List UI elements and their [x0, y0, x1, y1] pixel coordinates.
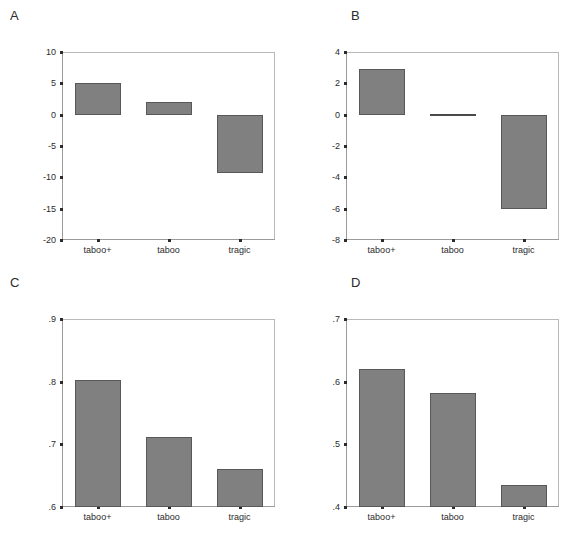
- y-tick-label: 4: [335, 48, 340, 57]
- y-tick-label: 0: [335, 110, 340, 119]
- panel-b: B 420-2-4-6-8 taboo+tabootragic: [284, 0, 568, 266]
- bar-taboo: [146, 437, 192, 507]
- x-tick-mark: [168, 239, 171, 242]
- x-tick-label: tragic: [228, 246, 250, 255]
- axis-spine-right: [558, 319, 559, 507]
- y-tick-mark: [344, 239, 347, 242]
- axis-spine-top: [62, 52, 275, 53]
- x-tick-label: taboo: [157, 246, 180, 255]
- y-tick-mark: [344, 145, 347, 148]
- x-tick-mark: [97, 239, 100, 242]
- bar-taboo-plus: [359, 369, 405, 507]
- bar-taboo-plus: [359, 69, 405, 114]
- plot-area-b: 420-2-4-6-8 taboo+tabootragic: [346, 52, 559, 240]
- y-tick-label: .7: [332, 315, 340, 324]
- y-tick-mark: [60, 506, 63, 509]
- y-tick-mark: [60, 82, 63, 85]
- x-tick-label: taboo: [157, 513, 180, 522]
- y-tick-mark: [344, 176, 347, 179]
- panel-letter-c: C: [10, 275, 20, 290]
- y-tick-mark: [344, 318, 347, 321]
- y-tick-label: 0: [51, 110, 56, 119]
- axis-spine-top: [346, 319, 559, 320]
- panel-d: D .7.6.5.4 taboo+tabootragic: [284, 267, 568, 533]
- bar-taboo-plus: [75, 83, 121, 114]
- bar-tragic: [217, 115, 263, 173]
- y-tick-mark: [344, 443, 347, 446]
- y-tick-label: .8: [48, 377, 56, 386]
- axis-spine-right: [558, 52, 559, 240]
- bar-tragic: [501, 115, 547, 210]
- bar-taboo: [430, 114, 476, 116]
- y-tick-label: -10: [43, 173, 56, 182]
- y-tick-mark: [344, 114, 347, 117]
- y-tick-mark: [60, 381, 63, 384]
- y-tick-label: -8: [332, 236, 340, 245]
- y-tick-label: -20: [43, 236, 56, 245]
- y-tick-mark: [60, 145, 63, 148]
- y-tick-label: .7: [48, 440, 56, 449]
- plot-area-a: 1050-5-10-15-20 taboo+tabootragic: [62, 52, 275, 240]
- bar-tragic: [217, 469, 263, 507]
- y-tick-label: .9: [48, 315, 56, 324]
- y-tick-label: -15: [43, 204, 56, 213]
- x-tick-label: tragic: [512, 513, 534, 522]
- y-tick-mark: [60, 176, 63, 179]
- figure-canvas: A 1050-5-10-15-20 taboo+tabootragic B 42…: [0, 0, 568, 533]
- y-tick-label: -2: [332, 142, 340, 151]
- plot-area-c: .9.8.7.6 taboo+tabootragic: [62, 319, 275, 507]
- x-tick-label: taboo+: [84, 513, 112, 522]
- axis-spine-top: [346, 52, 559, 53]
- axis-spine-right: [274, 52, 275, 240]
- x-tick-label: taboo: [441, 513, 464, 522]
- panel-letter-a: A: [10, 8, 19, 23]
- y-tick-label: 5: [51, 79, 56, 88]
- y-tick-mark: [60, 239, 63, 242]
- x-tick-mark: [239, 239, 242, 242]
- axis-spine-top: [62, 319, 275, 320]
- panel-letter-d: D: [351, 275, 361, 290]
- y-tick-label: -6: [332, 204, 340, 213]
- bar-taboo-plus: [75, 380, 121, 507]
- y-tick-label: .6: [332, 377, 340, 386]
- plot-area-d: .7.6.5.4 taboo+tabootragic: [346, 319, 559, 507]
- y-tick-mark: [60, 51, 63, 54]
- x-tick-mark: [523, 239, 526, 242]
- y-tick-mark: [60, 208, 63, 211]
- y-tick-mark: [60, 443, 63, 446]
- y-tick-mark: [344, 82, 347, 85]
- y-tick-label: -5: [48, 142, 56, 151]
- y-tick-mark: [344, 51, 347, 54]
- axis-spine-right: [274, 319, 275, 507]
- axis-spine-left: [62, 319, 63, 507]
- x-tick-mark: [381, 239, 384, 242]
- x-tick-label: taboo+: [368, 513, 396, 522]
- panel-c: C .9.8.7.6 taboo+tabootragic: [0, 267, 284, 533]
- axis-spine-left: [346, 319, 347, 507]
- y-tick-label: -4: [332, 173, 340, 182]
- y-tick-label: 10: [46, 48, 56, 57]
- bar-tragic: [501, 485, 547, 507]
- y-tick-mark: [344, 381, 347, 384]
- panel-letter-b: B: [351, 8, 360, 23]
- panel-a: A 1050-5-10-15-20 taboo+tabootragic: [0, 0, 284, 266]
- y-tick-label: .4: [332, 503, 340, 512]
- y-tick-mark: [60, 318, 63, 321]
- x-tick-mark: [452, 239, 455, 242]
- y-tick-label: 2: [335, 79, 340, 88]
- bar-taboo: [430, 393, 476, 507]
- y-tick-label: .6: [48, 503, 56, 512]
- x-tick-label: tragic: [228, 513, 250, 522]
- bar-taboo: [146, 102, 192, 115]
- x-tick-label: taboo+: [84, 246, 112, 255]
- y-tick-mark: [60, 114, 63, 117]
- x-tick-label: taboo: [441, 246, 464, 255]
- x-tick-label: taboo+: [368, 246, 396, 255]
- y-tick-mark: [344, 208, 347, 211]
- y-tick-mark: [344, 506, 347, 509]
- x-tick-label: tragic: [512, 246, 534, 255]
- y-tick-label: .5: [332, 440, 340, 449]
